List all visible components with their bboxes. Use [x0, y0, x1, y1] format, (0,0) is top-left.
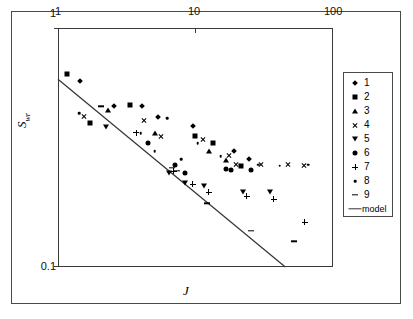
triangle-marker-icon	[348, 104, 362, 118]
triangle-marker-icon	[206, 149, 212, 154]
x-marker-icon	[285, 162, 291, 168]
triangle-down-marker-icon	[103, 125, 109, 130]
square-marker-icon	[65, 72, 70, 77]
legend-label: 5	[364, 134, 370, 144]
square-marker-icon	[348, 90, 362, 104]
x-tick-label-10: 10	[188, 6, 200, 17]
cross-marker-icon	[348, 160, 362, 174]
dot-marker-icon	[348, 174, 362, 188]
circle-marker-icon	[146, 141, 151, 146]
cross-marker-icon	[302, 219, 308, 225]
dot-marker-icon	[78, 112, 81, 115]
y-axis-title-base: S	[14, 122, 29, 129]
dot-marker-icon	[153, 150, 156, 153]
cross-marker-icon	[206, 189, 212, 195]
legend-item-8[interactable]: 8	[344, 174, 392, 188]
dot-marker-icon	[219, 155, 222, 158]
legend-item-4[interactable]: 4	[344, 118, 392, 132]
triangle-down-marker-icon	[348, 132, 362, 146]
x-marker-icon	[348, 118, 362, 132]
x-marker-icon	[141, 118, 147, 124]
legend-label: 8	[364, 176, 370, 186]
legend-item-9[interactable]: 9	[344, 188, 392, 202]
x-marker-icon	[200, 137, 206, 143]
cross-marker-icon	[271, 196, 277, 202]
figure-canvas: Swr J 1 0.1 1 10 100 123456789model	[0, 0, 413, 319]
dot-marker-icon	[139, 132, 142, 135]
dot-marker-icon	[239, 163, 242, 166]
triangle-down-marker-icon	[267, 190, 273, 195]
dot-marker-icon	[307, 163, 310, 166]
square-marker-icon	[87, 121, 92, 126]
triangle-down-marker-icon	[182, 180, 188, 185]
legend-label: 9	[364, 190, 370, 200]
legend-item-model[interactable]: model	[344, 202, 392, 216]
x-axis-title: J	[183, 283, 189, 299]
legend-item-3[interactable]: 3	[344, 104, 392, 118]
legend-label: 2	[364, 92, 370, 102]
dot-marker-icon	[278, 165, 281, 168]
dot-marker-icon	[197, 142, 200, 145]
square-marker-icon	[192, 134, 197, 139]
dash-marker-icon	[204, 202, 210, 203]
line-marker-icon	[348, 202, 362, 216]
dot-marker-icon	[257, 163, 260, 166]
legend-item-7[interactable]: 7	[344, 160, 392, 174]
dot-marker-icon	[180, 158, 183, 161]
legend-item-6[interactable]: 6	[344, 146, 392, 160]
y-axis-title-sub: wr	[23, 113, 32, 121]
legend-label: model	[362, 204, 387, 214]
legend-label: 4	[364, 120, 370, 130]
square-marker-icon	[128, 103, 133, 108]
diamond-marker-icon	[348, 76, 362, 90]
legend-label: 3	[364, 106, 370, 116]
circle-marker-icon	[223, 166, 228, 171]
x-marker-icon	[81, 114, 87, 120]
x-tick-label-1: 1	[55, 6, 61, 17]
cross-marker-icon	[244, 193, 250, 199]
cross-marker-icon	[190, 181, 196, 187]
legend: 123456789model	[343, 72, 393, 217]
y-axis-title: Swr	[14, 113, 32, 128]
dash-marker-icon	[248, 230, 254, 231]
y-tick-label-bottom: 0.1	[26, 261, 56, 272]
legend-item-1[interactable]: 1	[344, 76, 392, 90]
triangle-down-marker-icon	[201, 184, 207, 189]
triangle-marker-icon	[105, 107, 111, 112]
legend-label: 6	[364, 148, 370, 158]
circle-marker-icon	[348, 146, 362, 160]
dot-marker-icon	[166, 117, 169, 120]
plot-area: 1 0.1 1 10 100	[58, 28, 333, 267]
dash-marker-icon	[169, 167, 175, 168]
dash-marker-icon	[174, 170, 180, 171]
square-marker-icon	[210, 141, 215, 146]
legend-label: 1	[364, 78, 370, 88]
x-marker-icon	[226, 153, 232, 159]
circle-marker-icon	[183, 171, 188, 176]
circle-marker-icon	[248, 167, 253, 172]
legend-item-2[interactable]: 2	[344, 90, 392, 104]
cross-marker-icon	[133, 130, 139, 136]
dash-marker-icon	[348, 188, 362, 202]
legend-label: 7	[364, 162, 370, 172]
dash-marker-icon	[291, 241, 297, 242]
circle-marker-icon	[229, 167, 234, 172]
x-marker-icon	[158, 133, 164, 139]
x-tick-label-100: 100	[324, 6, 342, 17]
y-tick-label-top: 1	[36, 8, 56, 19]
model-line	[58, 28, 333, 267]
legend-item-5[interactable]: 5	[344, 132, 392, 146]
dash-marker-icon	[98, 106, 104, 107]
